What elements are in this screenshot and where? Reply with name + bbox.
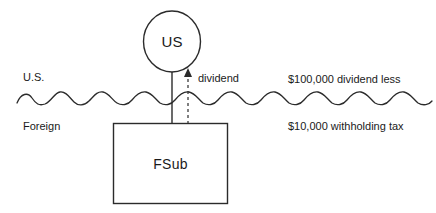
foreign-region-label: Foreign bbox=[23, 121, 60, 132]
annotation-withholding-tax: $10,000 withholding tax bbox=[288, 121, 404, 132]
us-region-label: U.S. bbox=[23, 72, 44, 83]
fsub-entity-label: FSub bbox=[113, 123, 228, 204]
us-entity-label: US bbox=[143, 11, 201, 72]
dividend-flow-label: dividend bbox=[198, 73, 239, 84]
diagram-canvas: US FSub dividend U.S. Foreign $100,000 d… bbox=[0, 0, 436, 213]
annotation-dividend-amount: $100,000 dividend less bbox=[288, 74, 401, 85]
wavy-border-line bbox=[17, 92, 432, 105]
